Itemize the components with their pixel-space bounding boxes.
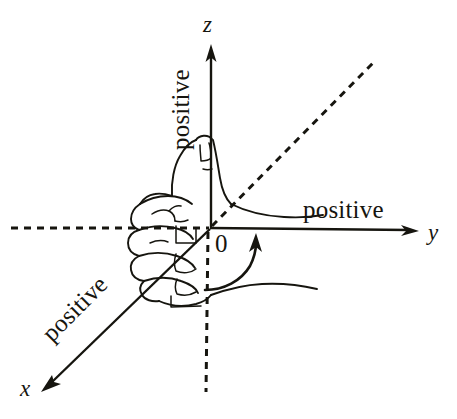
fist-outer-edge: [131, 204, 140, 230]
x-axis-letter: x: [19, 376, 31, 401]
fist-bottom-edge: [159, 295, 211, 306]
figure-canvas: z positive y positive x positive 0: [0, 0, 457, 419]
y-axis-letter: y: [426, 220, 439, 245]
index-finger-crease-2: [169, 206, 181, 211]
coordinate-axes-diagram: z positive y positive x positive 0: [0, 0, 457, 419]
negative-z-axis-dashed: [206, 232, 208, 392]
thumb-tip: [196, 136, 212, 140]
origin-label: 0: [215, 230, 228, 257]
z-positive-label: positive: [167, 69, 194, 150]
fist-outer-edge-4: [140, 281, 159, 301]
index-finger-tip-line: [175, 220, 188, 222]
middle-finger-crease: [150, 241, 168, 243]
positive-y-axis: [210, 228, 409, 230]
rotation-direction-arrow: [205, 243, 256, 290]
y-positive-label: positive: [303, 196, 384, 223]
index-finger-crease: [152, 210, 175, 221]
fist-outer-edge-2: [128, 230, 139, 256]
fist-outer-edge-3: [131, 256, 144, 281]
thumb-knuckle-crease: [203, 169, 212, 170]
z-axis-letter: z: [202, 12, 212, 37]
thumb-inner-contour: [213, 140, 231, 204]
ring-finger: [139, 253, 195, 268]
thumb-nail: [200, 143, 211, 161]
